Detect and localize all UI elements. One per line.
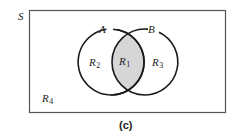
region-r2-label: R2: [89, 57, 100, 68]
venn-diagram-figure: S A B R1 R2 R3 R4 (c): [0, 0, 237, 135]
set-a-label: A: [99, 24, 106, 35]
region-r3-label: R3: [152, 57, 163, 68]
figure-caption: (c): [119, 120, 132, 131]
set-b-label: B: [148, 24, 155, 35]
universe-label: S: [18, 11, 24, 22]
venn-diagram-graphic: [0, 0, 237, 135]
region-r4-label: R4: [42, 93, 53, 104]
region-r1-label: R1: [119, 56, 130, 67]
